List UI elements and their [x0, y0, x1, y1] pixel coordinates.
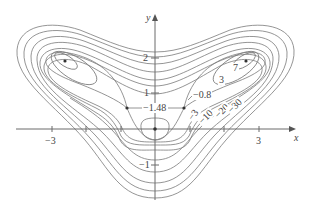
local-max-left: [63, 59, 66, 62]
contour-label-neg148: −1.48: [142, 103, 167, 113]
y-axis-label: y: [146, 13, 150, 23]
x-axis-label: x: [294, 133, 298, 143]
saddle-right: [182, 106, 185, 109]
y-tick-label-1: 1: [144, 88, 149, 98]
contour-label-7: 7: [232, 63, 239, 73]
x-tick-label-3: 3: [256, 136, 261, 146]
saddle-left: [125, 106, 128, 109]
contour-label-neg08: −0.8: [192, 90, 212, 100]
y-tick-label-neg1: −1: [139, 160, 150, 170]
contour-label-3: 3: [218, 75, 225, 85]
contour-neg148-left-loop: [46, 52, 127, 108]
local-min-origin: [153, 127, 157, 131]
y-axis-arrow-icon: [152, 14, 158, 21]
local-max-right: [244, 59, 247, 62]
y-tick-label-2: 2: [143, 53, 148, 63]
x-tick-label-neg3: −3: [45, 136, 56, 146]
